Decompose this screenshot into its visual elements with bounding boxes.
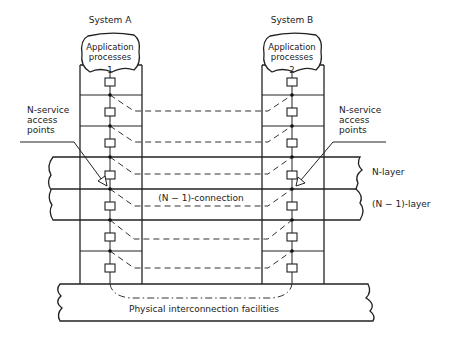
n-minus-1-connection-label: (N − 1)-connection <box>158 193 244 203</box>
svg-text:points: points <box>27 125 55 135</box>
svg-text:points: points <box>339 125 367 135</box>
system-a-title: System A <box>89 15 132 25</box>
svg-text:N-service: N-service <box>339 105 382 115</box>
app-b-label-1: Application <box>268 42 316 52</box>
physical-band <box>58 284 374 321</box>
svg-text:N-service: N-service <box>27 105 70 115</box>
app-a-label-2: processes <box>89 52 132 62</box>
app-a-number: 1 <box>107 65 112 75</box>
app-b-number: 2 <box>289 65 294 75</box>
system-b-title: System B <box>271 15 314 25</box>
svg-text:access: access <box>27 115 58 125</box>
n-layer-label: N-layer <box>372 167 405 177</box>
svg-text:access: access <box>339 115 370 125</box>
app-b-label-2: processes <box>271 52 314 62</box>
access-points-label-a: N-service access points <box>20 105 107 186</box>
physical-interconnection-label: Physical interconnection facilities <box>129 304 279 314</box>
application-processes-a: Application processes 1 <box>82 33 140 75</box>
osi-layer-diagram: System A System B Application processes … <box>0 0 451 343</box>
app-a-label-1: Application <box>86 42 134 52</box>
n-minus-1-layer-label: (N − 1)-layer <box>372 199 431 209</box>
access-point-dots <box>108 93 294 253</box>
application-processes-b: Application processes 2 <box>264 33 322 75</box>
layer-band <box>49 157 364 220</box>
